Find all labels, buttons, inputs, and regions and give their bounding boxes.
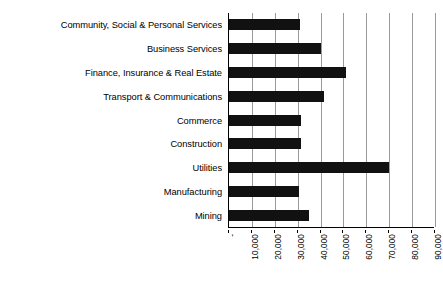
value-tick-label: 90,000 — [434, 234, 443, 260]
value-tick-label: 60,000 — [365, 234, 374, 260]
value-axis-labels: -10,00020,00030,00040,00050,00060,00070,… — [228, 230, 434, 280]
bar-row — [229, 61, 434, 85]
value-tick-label: 30,000 — [297, 234, 306, 260]
tick-mark — [274, 230, 275, 233]
category-axis-labels: Community, Social & Personal ServicesBus… — [0, 13, 226, 228]
tick-mark — [228, 230, 229, 233]
value-tick-label: 70,000 — [388, 234, 397, 260]
category-label-row: Commerce — [0, 109, 226, 133]
category-label-row: Finance, Insurance & Real Estate — [0, 61, 226, 85]
tick-mark — [297, 230, 298, 233]
category-label: Commerce — [177, 116, 222, 126]
bar — [229, 162, 389, 173]
tick-mark — [434, 230, 435, 233]
value-tick-label: 40,000 — [320, 234, 329, 260]
gridline — [435, 13, 436, 227]
category-label-row: Manufacturing — [0, 180, 226, 204]
tick-mark — [251, 230, 252, 233]
value-tick-label: 50,000 — [342, 234, 351, 260]
bar — [229, 210, 309, 221]
bar-row — [229, 132, 434, 156]
bar — [229, 138, 301, 149]
category-label-row: Business Services — [0, 37, 226, 61]
bar — [229, 19, 300, 30]
bar-row — [229, 108, 434, 132]
value-tick-label: 20,000 — [274, 234, 283, 260]
bar-row — [229, 179, 434, 203]
category-label-row: Utilities — [0, 156, 226, 180]
bar — [229, 115, 301, 126]
bar-row — [229, 13, 434, 37]
value-tick-label: 80,000 — [411, 234, 420, 260]
bar — [229, 91, 324, 102]
category-label: Community, Social & Personal Services — [61, 20, 222, 30]
bar — [229, 67, 346, 78]
bar-row — [229, 84, 434, 108]
bar — [229, 43, 321, 54]
tick-mark — [342, 230, 343, 233]
value-tick-label: 10,000 — [251, 234, 260, 260]
category-label: Transport & Communications — [103, 92, 222, 102]
value-tick-label: - — [228, 234, 237, 237]
category-label-row: Mining — [0, 204, 226, 228]
bar-series — [229, 13, 434, 227]
category-label-row: Community, Social & Personal Services — [0, 13, 226, 37]
tick-mark — [411, 230, 412, 233]
category-label: Finance, Insurance & Real Estate — [85, 68, 222, 78]
tick-mark — [320, 230, 321, 233]
plot-area — [228, 13, 434, 228]
category-label: Business Services — [147, 44, 222, 54]
category-label: Utilities — [192, 163, 222, 173]
category-label: Mining — [195, 211, 222, 221]
category-label: Manufacturing — [164, 187, 222, 197]
category-label: Construction — [170, 139, 222, 149]
category-label-row: Transport & Communications — [0, 85, 226, 109]
category-label-row: Construction — [0, 132, 226, 156]
bar-row — [229, 156, 434, 180]
tick-mark — [365, 230, 366, 233]
tick-mark — [388, 230, 389, 233]
bar-row — [229, 203, 434, 227]
bar-row — [229, 37, 434, 61]
bar — [229, 186, 299, 197]
